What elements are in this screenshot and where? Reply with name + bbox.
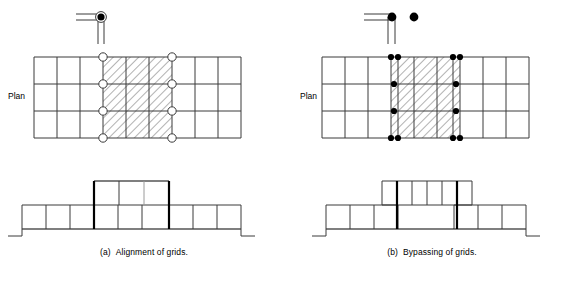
- bypassing-grid-intersection-symbol: [364, 13, 418, 44]
- grid-node-dot-icon: [410, 13, 419, 22]
- caption-text: Alignment of grids.: [116, 247, 188, 257]
- grid-node-ring-icon: [168, 107, 176, 115]
- caption-tag: (b): [387, 247, 398, 257]
- grid-node-dot-icon: [388, 135, 394, 141]
- grid-node-dot-icon: [450, 54, 456, 60]
- caption-text: Bypassing of grids.: [403, 247, 477, 257]
- plan-hatched-zone: [391, 57, 460, 138]
- grid-node-dot-icon: [457, 135, 463, 141]
- plan-label: Plan: [8, 91, 25, 101]
- grid-node-dot-icon: [388, 54, 394, 60]
- grid-node-ring-icon: [168, 80, 176, 88]
- grid-node-ring-icon: [99, 53, 107, 61]
- grid-node-ring-icon: [168, 53, 176, 61]
- grid-node-ring-icon: [99, 134, 107, 142]
- grid-alignment-figure: Plan (a)Alignment of grids.: [0, 0, 576, 283]
- grid-node-ring-icon: [99, 80, 107, 88]
- plan-label: Plan: [300, 91, 317, 101]
- aligned-grid-intersection-symbol: [76, 12, 106, 44]
- panel-b-drawing: [288, 0, 576, 250]
- plan-hatched-zone: [103, 57, 172, 138]
- grid-node-ring-icon: [99, 107, 107, 115]
- grid-node-dot-icon: [395, 135, 401, 141]
- grid-node-dot-icon: [388, 13, 397, 22]
- panel-a-drawing: [0, 0, 288, 250]
- grid-node-dot-icon: [97, 13, 104, 20]
- grid-node-dot-icon: [395, 54, 401, 60]
- caption-tag: (a): [100, 247, 111, 257]
- panel-alignment-of-grids: Plan (a)Alignment of grids.: [0, 0, 288, 283]
- grid-node-dot-icon: [391, 81, 397, 87]
- panel-a-caption: (a)Alignment of grids.: [0, 247, 288, 257]
- panel-b-caption: (b)Bypassing of grids.: [288, 247, 576, 257]
- grid-node-dot-icon: [457, 54, 463, 60]
- panel-bypassing-of-grids: Plan (b)Bypassing of grids.: [288, 0, 576, 283]
- grid-node-dot-icon: [391, 108, 397, 114]
- grid-node-ring-icon: [168, 134, 176, 142]
- grid-node-dot-icon: [453, 108, 459, 114]
- elevation-aligned: [8, 181, 255, 236]
- grid-node-dot-icon: [450, 135, 456, 141]
- plan-grid: [322, 54, 529, 141]
- elevation-bypassing: [312, 181, 540, 236]
- plan-grid: [34, 53, 241, 142]
- grid-node-dot-icon: [453, 81, 459, 87]
